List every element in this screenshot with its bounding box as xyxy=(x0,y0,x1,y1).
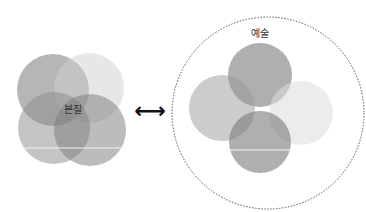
double-arrow-icon: ⟷ xyxy=(134,98,166,123)
diagram-canvas xyxy=(0,0,366,212)
art-circle-3 xyxy=(229,111,291,173)
art-label: 예술 xyxy=(251,25,269,40)
essence-label: 본질 xyxy=(64,101,82,116)
art-circle-group xyxy=(189,43,333,173)
